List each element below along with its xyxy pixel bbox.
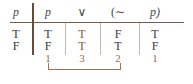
column-divider [139,23,140,55]
table-cell: F [4,40,28,52]
step-number: 1 [143,52,167,64]
column-divider [65,23,66,55]
column-divider-main [32,3,34,55]
header-p-input: p [4,6,28,18]
table-cell: T [106,40,130,52]
column-divider [100,23,101,55]
header-p-close: p) [143,6,167,18]
header-rule [10,22,184,23]
header-or: ∨ [70,6,94,18]
table-cell: F [36,40,60,52]
header-not: (∼ [106,6,130,18]
header-p: p [36,6,60,18]
table-cell-main: T [70,40,94,52]
table-cell: F [143,40,167,52]
scope-bracket [48,63,121,70]
